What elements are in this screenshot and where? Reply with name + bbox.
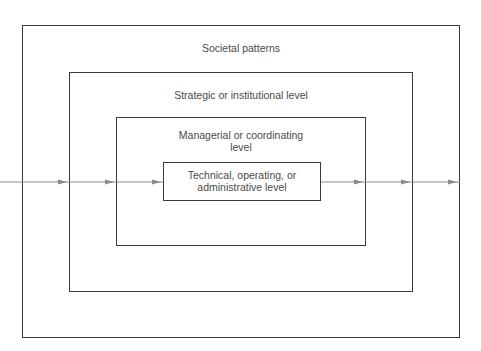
arrow-right-icon xyxy=(152,180,161,185)
flow-arrows xyxy=(0,0,481,351)
arrow-right-icon xyxy=(401,180,410,185)
arrow-right-icon xyxy=(105,180,114,185)
arrow-right-icon xyxy=(354,180,363,185)
arrow-right-icon xyxy=(58,180,67,185)
arrow-right-icon xyxy=(448,180,457,185)
